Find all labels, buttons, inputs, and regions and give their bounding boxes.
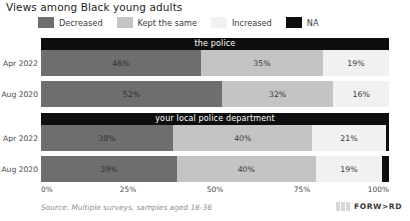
bar-segment-decreased[interactable]: 38% — [41, 125, 173, 151]
legend-swatch-icon — [38, 17, 54, 28]
chart-title: Views among Black young adults — [6, 1, 182, 13]
legend-swatch-icon — [286, 17, 302, 28]
panel-rows: Apr 2022 38% 40% 21% Aug 2020 39% 40% 19… — [41, 125, 389, 182]
panel-your-local-police-department: your local police department Apr 2022 38… — [41, 113, 389, 182]
panel-rows: Apr 2022 46% 35% 19% Aug 2020 52% 32% 16… — [41, 50, 389, 107]
segment-value: 39% — [100, 165, 117, 174]
legend-item-kept-the-same[interactable]: Kept the same — [117, 17, 197, 28]
legend-label: NA — [307, 18, 319, 28]
row-label: Apr 2022 — [0, 59, 38, 68]
bar-segment-na[interactable] — [386, 125, 389, 151]
segment-value: 38% — [98, 134, 115, 143]
stacked-bar: 38% 40% 21% — [41, 125, 389, 151]
legend-swatch-icon — [211, 17, 227, 28]
bar-row: Apr 2022 46% 35% 19% — [41, 50, 389, 76]
bar-row: Aug 2020 52% 32% 16% — [41, 81, 389, 107]
stacked-bar: 52% 32% 16% — [41, 81, 389, 107]
bar-segment-decreased[interactable]: 46% — [41, 50, 201, 76]
plot-area: the police Apr 2022 46% 35% 19% Aug 2020… — [41, 38, 389, 197]
row-label: Apr 2022 — [0, 134, 38, 143]
stacked-bar: 39% 40% 19% — [41, 156, 389, 182]
segment-value: 19% — [347, 59, 364, 68]
legend-label: Increased — [232, 18, 272, 28]
brand-text: FORW>RD — [354, 202, 402, 211]
legend-label: Kept the same — [138, 18, 197, 28]
segment-value: 16% — [352, 90, 369, 99]
panel-the-police: the police Apr 2022 46% 35% 19% Aug 2020… — [41, 38, 389, 107]
bar-segment-decreased[interactable]: 39% — [41, 156, 177, 182]
segment-value: 46% — [112, 59, 129, 68]
panel-title: your local police department — [41, 113, 389, 125]
row-label: Aug 2020 — [0, 165, 38, 174]
bar-segment-kept-the-same[interactable]: 35% — [201, 50, 323, 76]
segment-value: 40% — [238, 165, 255, 174]
bar-row: Aug 2020 39% 40% 19% — [41, 156, 389, 182]
axis-tick: 0% — [41, 185, 53, 194]
bar-segment-increased[interactable]: 19% — [323, 50, 389, 76]
bar-segment-increased[interactable]: 16% — [333, 81, 389, 107]
bar-segment-kept-the-same[interactable]: 32% — [222, 81, 333, 107]
segment-value: 32% — [269, 90, 286, 99]
segment-value: 21% — [340, 134, 357, 143]
segment-value: 19% — [340, 165, 357, 174]
bar-segment-kept-the-same[interactable]: 40% — [173, 125, 312, 151]
axis-tick: 50% — [207, 185, 223, 194]
axis-tick: 100% — [368, 185, 389, 194]
bar-row: Apr 2022 38% 40% 21% — [41, 125, 389, 151]
legend-item-decreased[interactable]: Decreased — [38, 17, 103, 28]
bar-segment-increased[interactable]: 21% — [312, 125, 385, 151]
segment-value: 52% — [123, 90, 140, 99]
legend-swatch-icon — [117, 17, 133, 28]
bar-segment-decreased[interactable]: 52% — [41, 81, 222, 107]
segment-value: 35% — [253, 59, 270, 68]
legend-item-na[interactable]: NA — [286, 17, 319, 28]
bar-segment-kept-the-same[interactable]: 40% — [177, 156, 316, 182]
brand-logo: FORW>RD — [336, 202, 402, 211]
stacked-bar: 46% 35% 19% — [41, 50, 389, 76]
legend-label: Decreased — [59, 18, 103, 28]
panel-title: the police — [41, 38, 389, 50]
brand-mark-icon — [336, 202, 350, 211]
x-axis: 0% 25% 50% 75% 100% — [41, 185, 389, 197]
axis-tick: 75% — [294, 185, 310, 194]
source-note: Source: Multiple surveys, samples aged 1… — [41, 203, 212, 212]
bar-segment-na[interactable] — [382, 156, 389, 182]
chart-figure: Views among Black young adults Decreased… — [0, 0, 410, 221]
axis-tick: 25% — [120, 185, 136, 194]
chart-legend: Decreased Kept the same Increased NA — [38, 17, 333, 28]
legend-item-increased[interactable]: Increased — [211, 17, 272, 28]
bar-segment-increased[interactable]: 19% — [316, 156, 382, 182]
row-label: Aug 2020 — [0, 90, 38, 99]
segment-value: 40% — [234, 134, 251, 143]
